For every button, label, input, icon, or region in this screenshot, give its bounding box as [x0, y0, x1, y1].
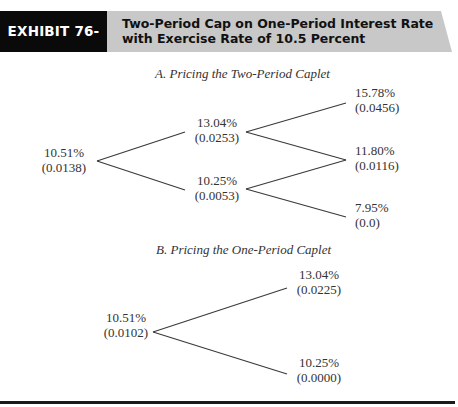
node-rate: 11.80%: [355, 144, 399, 159]
node-a-down: 10.25% (0.0053): [190, 174, 244, 203]
binomial-tree-edges: [0, 0, 458, 407]
section-a-title: A. Pricing the Two-Period Caplet: [155, 66, 330, 82]
edge-b-root-down: [153, 332, 287, 374]
edge-a-down-updown: [246, 160, 346, 189]
node-rate: 10.25%: [190, 174, 244, 189]
node-rate: 10.51%: [36, 146, 92, 161]
node-a-root: 10.51% (0.0138): [36, 146, 92, 175]
node-b-down: 10.25% (0.0000): [292, 356, 346, 385]
node-rate: 13.04%: [190, 116, 244, 131]
node-a-up-down: 11.80% (0.0116): [355, 144, 399, 173]
edge-a-root-down: [97, 161, 185, 190]
node-value: (0.0138): [36, 161, 92, 176]
edge-a-down-downdown: [246, 189, 346, 217]
node-value: (0.0116): [355, 159, 399, 174]
edge-a-up-upup: [246, 103, 346, 132]
edge-b-root-up: [153, 288, 287, 332]
node-b-root: 10.51% (0.0102): [100, 311, 152, 340]
node-value: (0.0102): [100, 326, 152, 341]
bottom-rule: [0, 401, 455, 404]
node-b-up: 13.04% (0.0225): [292, 268, 346, 297]
node-rate: 10.25%: [292, 356, 346, 371]
node-value: (0.0253): [190, 131, 244, 146]
node-value: (0.0): [355, 216, 389, 231]
node-a-up: 13.04% (0.0253): [190, 116, 244, 145]
node-value: (0.0053): [190, 189, 244, 204]
node-rate: 13.04%: [292, 268, 346, 283]
edge-a-root-up: [97, 132, 185, 161]
node-rate: 7.95%: [355, 201, 389, 216]
node-a-up-up: 15.78% (0.0456): [355, 86, 399, 115]
node-value: (0.0456): [355, 101, 399, 116]
section-b-title: B. Pricing the One-Period Caplet: [156, 242, 331, 258]
edge-a-up-updown: [246, 132, 346, 160]
node-rate: 10.51%: [100, 311, 152, 326]
node-rate: 15.78%: [355, 86, 399, 101]
node-value: (0.0000): [292, 371, 346, 386]
node-a-down-down: 7.95% (0.0): [355, 201, 389, 230]
node-value: (0.0225): [292, 283, 346, 298]
